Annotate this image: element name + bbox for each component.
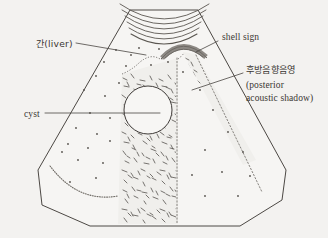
cyst-circle <box>124 86 172 134</box>
label-cyst: cyst <box>24 109 40 119</box>
cyst-group <box>124 86 172 134</box>
label-posterior-acoustic-shadow-line2: acoustic shadow) <box>246 93 313 104</box>
ultrasound-diagram-figure: 간(liver) cyst shell sign 후방음향음영 (posteri… <box>0 0 328 238</box>
label-shell-sign: shell sign <box>222 32 259 42</box>
main-shadow-band <box>118 58 178 226</box>
label-posterior-acoustic-shadow-line1: (posterior <box>246 80 285 91</box>
label-liver: 간(liver) <box>36 38 73 49</box>
label-posterior-acoustic-shadow-korean: 후방음향음영 <box>246 64 295 75</box>
diagram-canvas: 간(liver) cyst shell sign 후방음향음영 (posteri… <box>0 0 328 238</box>
